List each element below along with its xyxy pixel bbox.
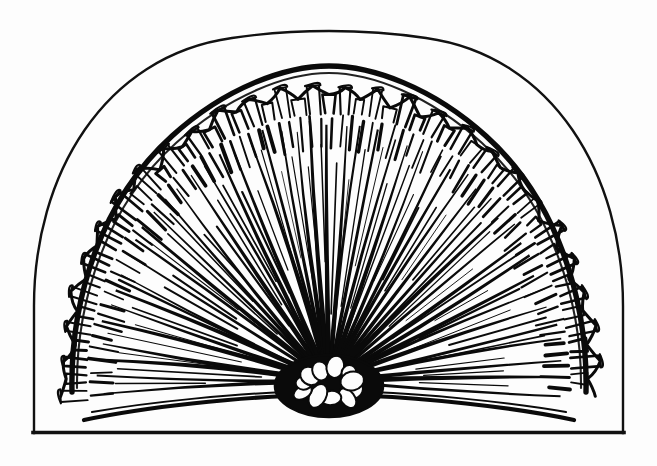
gather-tick	[544, 366, 568, 367]
gather-tick	[549, 387, 570, 389]
gather-tick	[90, 382, 113, 383]
gather-tick	[545, 343, 564, 345]
illustration-canvas: Arched Fan Shade Pleated sunburst window…	[0, 0, 657, 466]
gather-tick	[541, 377, 570, 378]
gather-tick	[545, 353, 567, 355]
rosette-knot	[275, 354, 383, 417]
gather-tick	[331, 119, 332, 149]
fan-shade-drawing	[0, 0, 657, 466]
gather-tick	[91, 372, 112, 373]
